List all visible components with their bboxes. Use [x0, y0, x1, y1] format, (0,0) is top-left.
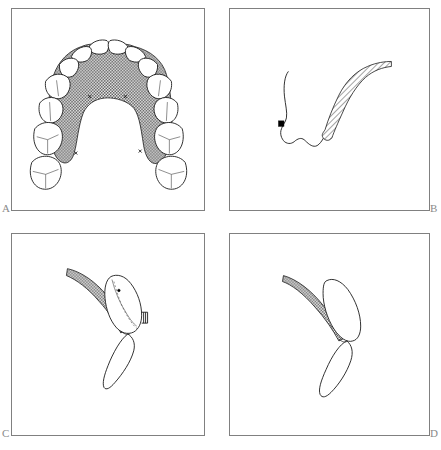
tooth-premolar-second-right — [39, 97, 63, 123]
tooth-upper-outline — [323, 279, 361, 341]
panel-d-drawing — [230, 234, 429, 435]
panel-c — [11, 233, 205, 436]
annotation-tick-left-posterior — [139, 150, 142, 153]
annotation-tick-right-posterior — [74, 152, 77, 155]
tooth-molar-first-right — [34, 122, 63, 154]
panel-a — [11, 8, 205, 211]
panel-label-b: B — [430, 203, 437, 214]
panel-label-c: C — [2, 428, 9, 439]
landmark-marker-square — [279, 121, 284, 126]
panel-label-a: A — [2, 203, 10, 214]
tooth-point-marker — [118, 289, 121, 292]
stipple-band — [322, 61, 391, 140]
panel-c-drawing — [12, 234, 204, 435]
tooth-premolar-first-left — [147, 74, 172, 99]
tooth-premolar-first-right — [45, 74, 70, 99]
panel-a-drawing — [12, 9, 204, 210]
figure-root: A B — [0, 0, 441, 450]
panel-d — [229, 233, 430, 436]
panel-label-d: D — [430, 428, 438, 439]
bracket-attachment-mark — [142, 312, 148, 323]
tooth-molar-first-left — [155, 122, 184, 154]
tooth-premolar-second-left — [154, 97, 178, 123]
tooth-upper-outline — [105, 275, 142, 333]
panel-b-drawing — [230, 9, 429, 210]
tooth-lower-outline — [103, 334, 134, 389]
tooth-lower-outline — [319, 341, 352, 397]
panel-b — [229, 8, 430, 211]
